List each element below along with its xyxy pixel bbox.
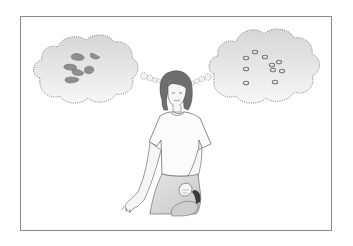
right-thought-bubble — [209, 29, 319, 103]
left-connector-bubbles — [141, 73, 162, 84]
right-connector-bubbles — [191, 74, 211, 85]
girl-figure — [122, 71, 211, 216]
thinking-girl-illustration — [0, 0, 353, 246]
t-shirt — [149, 112, 211, 176]
right-hand — [179, 183, 192, 196]
left-thought-bubble — [33, 35, 138, 103]
